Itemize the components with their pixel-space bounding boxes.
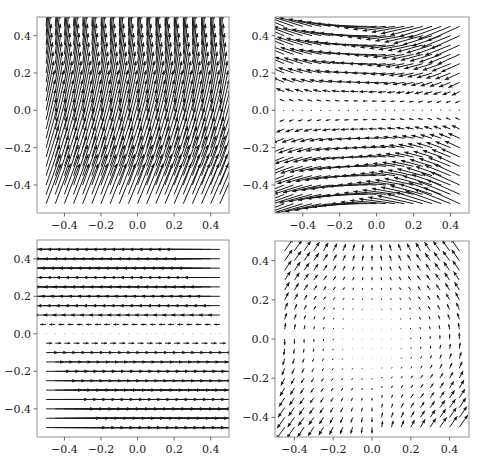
y-tick-label: −0.2 — [242, 142, 269, 155]
quiver-arrows — [276, 239, 468, 440]
x-tick-label: 0.4 — [441, 443, 459, 456]
x-tick-label: 0.0 — [129, 219, 147, 232]
y-tick-label: −0.4 — [242, 179, 269, 192]
y-tick-label: 0.0 — [14, 328, 32, 341]
x-tick-label: 0.2 — [165, 219, 183, 232]
x-tick-label: −0.4 — [51, 443, 78, 456]
y-tick-label: −0.4 — [4, 403, 31, 416]
quiver-arrows — [46, 0, 237, 204]
panel-top-right: −0.4−0.20.00.20.4−0.4−0.20.00.20.4 — [242, 13, 469, 232]
x-tick-label: 0.4 — [202, 219, 220, 232]
x-tick-label: 0.4 — [202, 443, 220, 456]
x-tick-label: 0.0 — [368, 219, 386, 232]
x-tick-label: 0.2 — [402, 443, 420, 456]
y-tick-label: 0.0 — [14, 104, 32, 117]
panel-bottom-left: −0.4−0.20.00.20.4−0.4−0.20.00.20.4 — [0, 240, 280, 456]
x-tick-label: −0.2 — [88, 443, 115, 456]
y-tick-label: 0.0 — [252, 333, 270, 346]
x-tick-label: −0.4 — [289, 219, 316, 232]
x-tick-label: −0.2 — [320, 443, 347, 456]
panel-bottom-right: −0.4−0.20.00.20.4−0.4−0.20.00.20.4 — [242, 239, 469, 456]
y-tick-label: −0.2 — [4, 142, 31, 155]
quiver-arrows — [248, 13, 460, 218]
y-tick-label: 0.4 — [252, 30, 270, 43]
x-tick-label: 0.2 — [405, 219, 423, 232]
x-tick-label: −0.4 — [281, 443, 308, 456]
y-tick-label: 0.4 — [14, 253, 32, 266]
y-tick-label: 0.2 — [14, 290, 32, 303]
y-tick-label: 0.0 — [252, 104, 270, 117]
y-tick-label: 0.4 — [14, 30, 32, 43]
panel-top-left: −0.4−0.20.00.20.4−0.4−0.20.00.20.4 — [4, 0, 237, 232]
y-tick-label: 0.2 — [252, 67, 270, 80]
x-tick-label: −0.2 — [326, 219, 353, 232]
x-tick-label: 0.0 — [129, 443, 147, 456]
y-tick-label: 0.2 — [252, 294, 270, 307]
x-tick-label: −0.4 — [51, 219, 78, 232]
y-tick-label: −0.2 — [242, 372, 269, 385]
quiver-arrows — [0, 248, 280, 430]
y-tick-label: 0.2 — [14, 67, 32, 80]
y-tick-label: 0.4 — [252, 255, 270, 268]
x-tick-label: 0.0 — [363, 443, 381, 456]
y-tick-label: −0.4 — [242, 411, 269, 424]
x-tick-label: 0.4 — [442, 219, 460, 232]
y-tick-label: −0.2 — [4, 365, 31, 378]
quiver-figure: −0.4−0.20.00.20.4−0.4−0.20.00.20.4 −0.4−… — [0, 0, 482, 468]
x-tick-label: −0.2 — [88, 219, 115, 232]
y-tick-label: −0.4 — [4, 179, 31, 192]
x-tick-label: 0.2 — [165, 443, 183, 456]
